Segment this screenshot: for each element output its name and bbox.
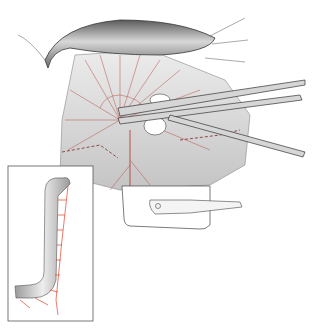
surgical-illustration <box>0 0 318 331</box>
illustration-svg <box>0 0 318 331</box>
